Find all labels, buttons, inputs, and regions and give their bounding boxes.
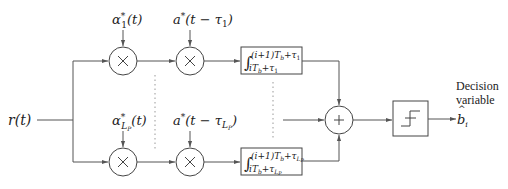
integrator-top-upper-limit: (i+1)Tb+τ1 [251, 50, 300, 61]
wire-int-summer-top [302, 61, 339, 105]
code1-label: a*(t − τ1) [173, 11, 233, 29]
bottom-branch: α*LP(t) a*(t − τLP) ∫ (i+1)Tb+τLP iTb+τL… [109, 112, 339, 176]
input-label: r(t) [8, 112, 31, 128]
wire-int-summer-bottom [302, 135, 339, 161]
output-hat: ^ [458, 104, 466, 114]
alphaLP-label: α*LP(t) [112, 112, 147, 132]
rake-receiver-diagram: r(t) α*1(t) a*(t − τ1) ∫ (i+1)Tb+τ1 iTb+… [0, 0, 508, 189]
integrator-top-lower-limit: iTb+τ1 [249, 63, 278, 74]
alpha1-label: α*1(t) [112, 11, 142, 30]
output-symbol: bi [457, 112, 468, 129]
codeLP-label: a*(t − τLP) [173, 112, 237, 131]
output-label-line1: Decision [456, 79, 499, 93]
top-branch: α*1(t) a*(t − τ1) ∫ (i+1)Tb+τ1 iTb+τ1 [109, 11, 339, 105]
